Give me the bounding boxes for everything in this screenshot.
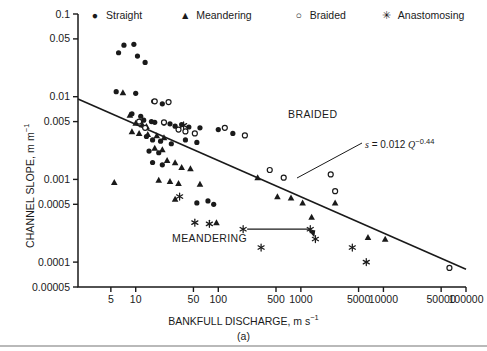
data-point — [333, 189, 338, 194]
data-point — [133, 91, 138, 96]
x-tick-label: 100000 — [448, 293, 483, 305]
data-point — [365, 234, 372, 240]
figure-panel: 0.10.050.010.0050.0010.00050.00010.00005… — [0, 0, 487, 351]
data-point — [177, 193, 183, 200]
x-tick-label: 10000 — [369, 293, 398, 305]
y-axis-title-text: CHANNEL SLOPE, m m — [24, 132, 36, 248]
region-label-braided: BRAIDED — [288, 108, 337, 120]
data-point — [288, 194, 295, 200]
bottom-rule — [0, 345, 487, 347]
connector-arrowhead — [308, 230, 315, 237]
data-point — [447, 265, 452, 270]
y-tick-label: 0.05 — [50, 32, 71, 44]
data-point — [192, 219, 198, 226]
data-point — [160, 101, 165, 106]
data-point — [155, 177, 162, 183]
data-point — [216, 127, 221, 132]
y-tick-label: 0.005 — [44, 115, 70, 127]
x-axis-title-exponent: −1 — [310, 313, 319, 322]
x-tick-label: 5000 — [347, 293, 371, 305]
data-point — [312, 236, 318, 243]
data-point — [192, 131, 197, 136]
x-tick-label: 100 — [210, 293, 228, 305]
data-point — [131, 42, 136, 47]
y-axis-title: CHANNEL SLOPE, m m−1 — [22, 123, 36, 248]
data-point — [111, 179, 118, 185]
data-point — [172, 196, 179, 202]
data-point — [183, 137, 188, 142]
data-point — [175, 180, 182, 186]
y-tick-label: 0.01 — [50, 90, 71, 102]
data-point — [187, 165, 194, 171]
data-point — [222, 125, 227, 130]
data-point — [197, 181, 204, 187]
data-point — [349, 244, 355, 251]
region-label-meandering: MEANDERING — [172, 232, 247, 244]
data-point — [194, 200, 199, 205]
panel-label: (a) — [0, 330, 487, 342]
data-point — [281, 175, 286, 180]
equation-mid: = 0.012 — [369, 139, 408, 150]
data-point — [205, 198, 210, 203]
data-point — [299, 200, 306, 206]
data-point — [197, 125, 202, 130]
data-point — [242, 133, 247, 138]
data-point — [167, 121, 172, 126]
x-tick-label: 1000 — [289, 293, 313, 305]
trendline-equation: s = 0.012 Q−0.44 — [365, 137, 434, 150]
y-tick-label: 0.0005 — [38, 198, 70, 210]
data-point — [169, 141, 174, 146]
data-point — [114, 89, 119, 94]
series-meandering — [111, 89, 389, 241]
data-point — [151, 145, 158, 151]
data-point — [164, 157, 171, 163]
data-point — [230, 131, 235, 136]
data-point — [211, 202, 216, 207]
x-tick-label: 500 — [267, 293, 285, 305]
data-point — [161, 120, 166, 125]
x-axis-title: BANKFULL DISCHARGE, m s−1 — [0, 313, 487, 327]
data-point — [152, 99, 157, 104]
y-tick-label: 0.00005 — [32, 281, 70, 293]
data-point — [274, 193, 281, 199]
data-point — [120, 89, 127, 95]
data-point — [258, 244, 264, 251]
data-point — [178, 164, 185, 170]
data-point — [143, 60, 148, 65]
data-point — [150, 160, 155, 165]
data-point — [363, 259, 369, 266]
y-tick-label: 0.0001 — [38, 256, 70, 268]
x-axis-title-text: BANKFULL DISCHARGE, m s — [168, 315, 310, 327]
data-point — [146, 148, 151, 153]
data-point — [213, 219, 220, 225]
y-axis-title-exponent: −1 — [22, 123, 31, 132]
x-tick-label: 10 — [130, 293, 142, 305]
data-point — [267, 167, 272, 172]
data-point — [172, 159, 179, 165]
data-point — [382, 236, 389, 242]
data-point — [116, 50, 121, 55]
scatter-plot-canvas: 0.10.050.010.0050.0010.00050.00010.00005… — [0, 0, 487, 351]
y-tick-label: 0.1 — [55, 8, 70, 20]
data-point — [152, 120, 157, 125]
data-point — [308, 214, 315, 220]
data-point — [137, 119, 142, 124]
x-tick-label: 5 — [108, 293, 114, 305]
data-point — [159, 146, 166, 152]
x-tick-label: 50 — [188, 293, 200, 305]
data-point — [121, 43, 126, 48]
data-point — [167, 178, 174, 184]
data-point — [143, 125, 148, 130]
data-point — [135, 53, 140, 58]
data-point — [166, 100, 171, 105]
equation-exponent: −0.44 — [415, 137, 434, 146]
data-point — [332, 200, 339, 206]
data-point — [206, 220, 212, 227]
data-point — [194, 140, 199, 145]
series-straight — [114, 42, 236, 207]
data-point — [144, 131, 151, 137]
data-point — [328, 172, 333, 177]
data-point — [129, 128, 136, 134]
y-tick-label: 0.001 — [44, 173, 70, 185]
series-anastomosing — [177, 122, 370, 266]
